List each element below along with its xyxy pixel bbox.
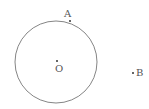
label-o: O [55, 63, 63, 74]
label-b: B [136, 67, 143, 78]
point-a [69, 20, 71, 22]
circle-o [15, 21, 97, 103]
point-b [132, 72, 134, 74]
point-o [56, 60, 58, 62]
diagram-canvas: A O B [0, 0, 149, 109]
label-a: A [63, 8, 72, 19]
